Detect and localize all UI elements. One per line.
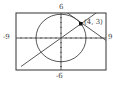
x-max-label: 9 xyxy=(108,34,112,41)
point-label: (4, 3) xyxy=(84,19,103,26)
tangent-point-marker xyxy=(79,22,83,26)
y-min-label: -6 xyxy=(56,73,63,80)
x-min-label: -9 xyxy=(3,34,10,41)
y-max-label: 6 xyxy=(59,4,63,11)
